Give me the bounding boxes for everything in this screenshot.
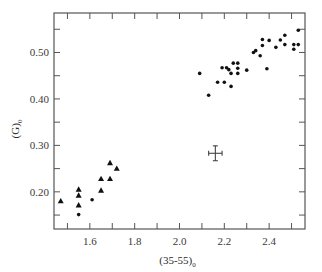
- triangle-marker: [58, 198, 64, 203]
- y-tick-label: 0.30: [30, 139, 50, 151]
- x-tick-label: 2.0: [173, 235, 187, 247]
- dot-marker: [77, 213, 81, 217]
- dot-marker: [267, 39, 271, 43]
- triangle-marker: [76, 192, 82, 197]
- x-axis-label: (35-55)0: [159, 254, 196, 269]
- x-tick-labels: 1.61.82.02.22.4: [83, 235, 277, 247]
- y-tick-labels: 0.200.300.400.50: [30, 46, 50, 197]
- dot-marker: [216, 80, 220, 84]
- dot-marker: [261, 44, 265, 48]
- dot-marker: [245, 68, 249, 72]
- dot-marker: [292, 43, 296, 47]
- triangle-marker: [76, 186, 82, 191]
- dot-marker: [231, 61, 235, 65]
- dot-marker: [296, 43, 300, 47]
- x-tick-label: 1.6: [83, 235, 97, 247]
- dot-marker: [258, 54, 262, 58]
- dot-marker: [229, 72, 233, 76]
- y-tick-label: 0.50: [30, 46, 50, 58]
- dot-marker: [90, 198, 94, 202]
- dot-marker: [296, 28, 300, 32]
- triangle-marker: [114, 165, 120, 170]
- dot-marker: [236, 72, 240, 76]
- x-tick-label: 2.4: [262, 235, 276, 247]
- dot-marker: [283, 33, 287, 37]
- dot-marker: [220, 66, 224, 70]
- y-tick-label: 0.40: [30, 93, 50, 105]
- x-tick-label: 2.2: [217, 235, 231, 247]
- scatter-chart: 1.61.82.02.22.4 0.200.300.400.50 (35-55)…: [0, 0, 322, 272]
- y-tick-label: 0.20: [30, 186, 50, 198]
- dot-marker: [283, 43, 287, 47]
- triangle-marker: [107, 160, 113, 165]
- dot-marker: [207, 93, 211, 97]
- dot-marker: [236, 61, 240, 65]
- axis-ticks: [54, 13, 305, 229]
- plot-frame: [54, 13, 305, 229]
- dot-marker: [292, 47, 296, 51]
- y-axis-label: (G)0: [9, 119, 24, 138]
- dot-marker: [254, 49, 258, 53]
- x-tick-label: 1.8: [128, 235, 142, 247]
- dot-marker: [274, 46, 278, 50]
- triangle-marker: [107, 176, 113, 181]
- dot-marker: [223, 80, 227, 84]
- triangle-marker: [98, 187, 104, 192]
- dot-marker: [198, 72, 202, 76]
- error-bar-annotation: [209, 146, 222, 161]
- dot-marker: [236, 66, 240, 70]
- data-points: [58, 28, 300, 216]
- dot-marker: [229, 85, 233, 89]
- triangle-marker: [76, 202, 82, 207]
- triangle-marker: [98, 176, 104, 181]
- dot-marker: [261, 38, 265, 42]
- dot-marker: [265, 67, 269, 71]
- dot-marker: [227, 68, 231, 72]
- dot-marker: [279, 38, 283, 42]
